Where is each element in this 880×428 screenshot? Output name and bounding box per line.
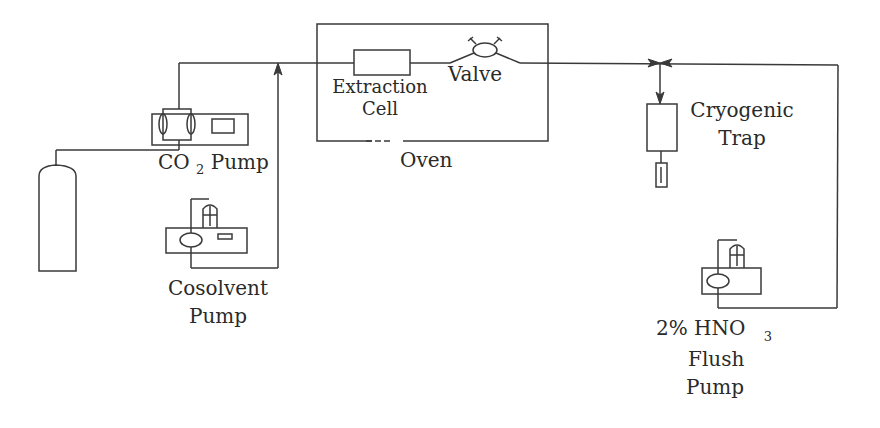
cosolvent-label-line1: Cosolvent bbox=[150, 276, 286, 300]
co2-pump-label: CO 2 Pump bbox=[158, 150, 269, 177]
junction bbox=[648, 59, 672, 104]
oven-label: Oven bbox=[400, 148, 452, 172]
co2-pump bbox=[152, 63, 248, 150]
valve-icon bbox=[450, 37, 520, 63]
cryogenic-trap-label: Cryogenic Trap bbox=[686, 98, 798, 150]
extraction-label-line1: Extraction bbox=[322, 76, 438, 98]
extraction-cell-label: Extraction Cell bbox=[322, 76, 438, 120]
trap-label-line2: Trap bbox=[686, 126, 798, 150]
extraction-cell bbox=[354, 50, 410, 75]
flush-label-subscript: 3 bbox=[764, 329, 772, 344]
co2-label-subscript: 2 bbox=[196, 162, 204, 177]
cosolvent-pump-label: Cosolvent Pump bbox=[150, 276, 286, 328]
valve-label: Valve bbox=[448, 62, 502, 86]
flush-label-flush: Flush bbox=[656, 347, 796, 371]
co2-label-main: CO bbox=[158, 150, 190, 174]
flush-label-pump: Pump bbox=[656, 375, 796, 399]
cosolvent-label-line2: Pump bbox=[150, 304, 286, 328]
co2-label-pump: Pump bbox=[211, 150, 269, 174]
cryogenic-trap bbox=[647, 104, 677, 187]
trap-label-line1: Cryogenic bbox=[686, 98, 798, 122]
flush-pump-label: 2% HNO 3 Flush Pump bbox=[656, 316, 796, 399]
flush-label-hno: 2% HNO bbox=[656, 316, 745, 340]
extraction-label-line2: Cell bbox=[322, 98, 438, 120]
